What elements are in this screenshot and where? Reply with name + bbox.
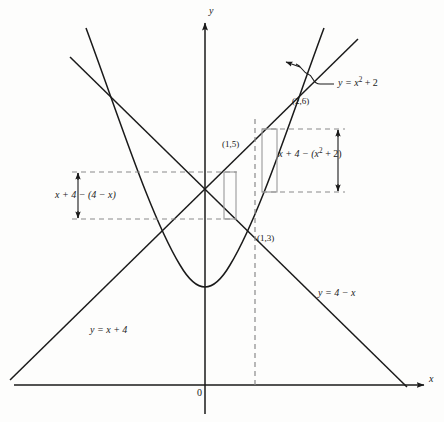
left-bracket-label: x + 4 − (4 − x) [55, 190, 116, 200]
line-y-equals-4-minus-x [70, 57, 407, 387]
parabola-eq-suffix: + 2 [362, 77, 378, 88]
graph-canvas [0, 0, 444, 422]
parabola-equation-label: y = x2 + 2 [338, 78, 378, 88]
right-bracket-guides [262, 129, 345, 192]
figure-root: y x 0 (2,6) (1,5) (1,3) y = x2 + 2 y = 4… [0, 0, 444, 422]
origin-label: 0 [197, 388, 202, 398]
x-axis-label: x [429, 374, 433, 384]
right-bracket-suffix: + 2) [323, 148, 342, 159]
right-bracket-prefix: x + 4 − (x [278, 148, 319, 159]
right-bracket-label: x + 4 − (x2 + 2) [278, 149, 341, 159]
line-up-equation-label: y = x + 4 [90, 325, 127, 335]
line-down-equation-label: y = 4 − x [318, 288, 355, 298]
point-label-1-3: (1,3) [257, 234, 274, 243]
line-y-equals-x-plus-4 [10, 39, 358, 380]
y-axis-label: y [209, 6, 213, 16]
point-label-2-6: (2,6) [292, 97, 309, 106]
point-label-1-5: (1,5) [222, 140, 239, 149]
right-representative-rectangle [262, 129, 277, 192]
left-representative-rectangle [224, 172, 236, 219]
parabola-eq-prefix: y = x [338, 77, 359, 88]
